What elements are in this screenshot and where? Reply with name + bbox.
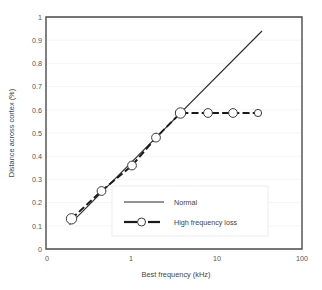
x-tick-labels: 0 1 10 100 bbox=[45, 254, 308, 263]
data-point-marker bbox=[66, 214, 76, 224]
data-point-marker bbox=[254, 109, 261, 116]
x-tick-label: 100 bbox=[296, 254, 308, 263]
y-tick-label: 0.9 bbox=[32, 36, 42, 45]
legend-swatch-hfl-marker bbox=[138, 218, 146, 226]
y-tick-label: 0.8 bbox=[32, 59, 42, 68]
y-tick-label: 0 bbox=[38, 245, 42, 254]
y-tick-labels: 1 0.9 0.8 0.7 0.6 0.5 0.4 0.3 0.2 0.1 0 bbox=[32, 13, 42, 254]
y-axis-title: Distance across cortex (%) bbox=[7, 89, 16, 177]
y-tick-label: 1 bbox=[38, 13, 42, 22]
chart-svg: 1 0.9 0.8 0.7 0.6 0.5 0.4 0.3 0.2 0.1 0 … bbox=[0, 0, 322, 290]
y-tick-label: 0.1 bbox=[32, 222, 42, 231]
y-tick-label: 0.3 bbox=[32, 175, 42, 184]
legend-item-high-frequency-loss[interactable]: High frequency loss bbox=[124, 218, 238, 227]
data-point-marker bbox=[152, 133, 161, 142]
x-tick-label: 1 bbox=[129, 254, 133, 263]
x-tick-label: 0 bbox=[45, 254, 49, 263]
data-point-marker bbox=[97, 187, 106, 196]
chart-legend: Normal High frequency loss bbox=[112, 186, 268, 236]
x-axis-title: Best frequency (kHz) bbox=[141, 270, 210, 279]
legend-label-normal: Normal bbox=[174, 198, 198, 207]
chart-figure: 1 0.9 0.8 0.7 0.6 0.5 0.4 0.3 0.2 0.1 0 … bbox=[0, 0, 322, 290]
legend-label-high-frequency-loss: High frequency loss bbox=[174, 218, 238, 227]
y-tick-label: 0.4 bbox=[32, 152, 42, 161]
y-tick-label: 0.5 bbox=[32, 129, 42, 138]
data-point-marker bbox=[204, 109, 213, 118]
x-tick-label: 10 bbox=[213, 254, 221, 263]
y-tick-label: 0.7 bbox=[32, 82, 42, 91]
data-point-marker bbox=[229, 109, 238, 118]
data-point-marker bbox=[128, 161, 137, 170]
data-point-marker bbox=[175, 108, 185, 118]
legend-background bbox=[112, 186, 268, 236]
y-tick-label: 0.6 bbox=[32, 106, 42, 115]
y-tick-label: 0.2 bbox=[32, 198, 42, 207]
